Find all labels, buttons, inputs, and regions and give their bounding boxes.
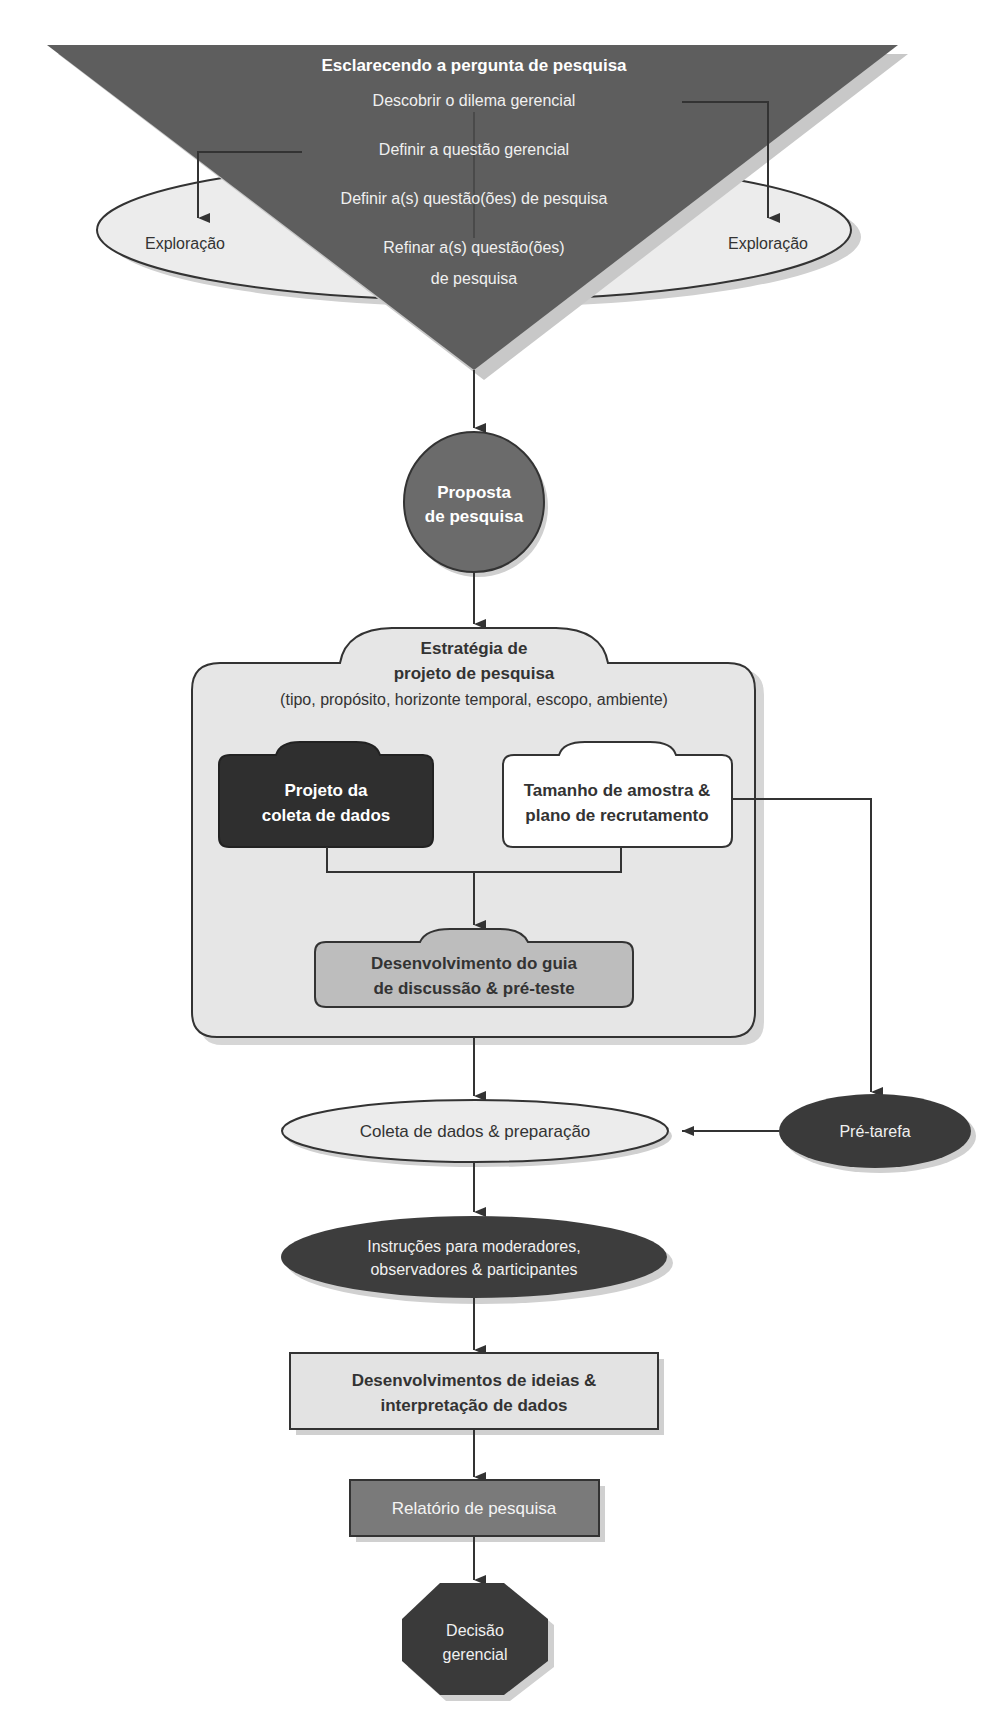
proposal-line-2: de pesquisa — [425, 507, 524, 526]
exploration-left-label: Exploração — [145, 235, 225, 252]
ideas-line-1: Desenvolvimentos de ideias & — [352, 1371, 597, 1390]
clarify-step-2: Definir a questão gerencial — [379, 141, 569, 158]
exploration-right-label: Exploração — [728, 235, 808, 252]
clarify-step-1: Descobrir o dilema gerencial — [373, 92, 576, 109]
strategy-line-1: Estratégia de — [421, 639, 528, 658]
decision-line-2: gerencial — [443, 1646, 508, 1663]
sample-line-2: plano de recrutamento — [525, 806, 708, 825]
proposal-line-1: Proposta — [437, 483, 511, 502]
guide-line-2: de discussão & pré-teste — [373, 979, 574, 998]
proposal-circle — [404, 432, 544, 572]
research-process-diagram: Esclarecendo a pergunta de pesquisa Desc… — [0, 0, 1005, 1723]
guide-line-1: Desenvolvimento do guia — [371, 954, 577, 973]
clarify-title: Esclarecendo a pergunta de pesquisa — [321, 56, 627, 75]
clarify-step-3: Definir a(s) questão(ões) de pesquisa — [341, 190, 608, 207]
clarify-step-4b: de pesquisa — [431, 270, 517, 287]
strategy-line-2: projeto de pesquisa — [394, 664, 555, 683]
data-collection-line-1: Projeto da — [284, 781, 368, 800]
report-label: Relatório de pesquisa — [392, 1499, 557, 1518]
clarify-step-4: Refinar a(s) questão(ões) — [383, 239, 564, 256]
instructions-line-2: observadores & participantes — [370, 1261, 577, 1278]
collection-label: Coleta de dados & preparação — [360, 1122, 591, 1141]
instructions-line-1: Instruções para moderadores, — [367, 1238, 580, 1255]
data-collection-line-2: coleta de dados — [262, 806, 390, 825]
sample-line-1: Tamanho de amostra & — [524, 781, 711, 800]
instructions-ellipse — [281, 1216, 667, 1298]
ideas-interpretation-box — [290, 1353, 658, 1429]
pretask-label: Pré-tarefa — [839, 1123, 910, 1140]
ideas-line-2: interpretação de dados — [380, 1396, 567, 1415]
decision-line-1: Decisão — [446, 1622, 504, 1639]
strategy-line-3: (tipo, propósito, horizonte temporal, es… — [280, 691, 668, 708]
